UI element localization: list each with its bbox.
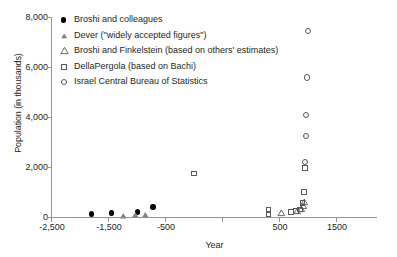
- legend-label: Broshi and Finkelstein (based on others'…: [74, 44, 278, 57]
- data-point-open-square: [302, 165, 308, 171]
- open-triangle-marker-icon: [60, 44, 73, 57]
- x-axis-line: [51, 217, 377, 218]
- scatter-chart: Population (in thousands) 8,000 6,000 4,…: [0, 0, 397, 257]
- legend-label: Broshi and colleagues: [74, 13, 163, 26]
- data-point-open-square: [266, 207, 272, 213]
- x-axis-title: Year: [52, 240, 377, 250]
- open-circle-marker-icon: [60, 75, 73, 88]
- y-tick-mark: [47, 17, 52, 18]
- chart-legend: Broshi and colleagues Dever ("widely acc…: [60, 12, 278, 90]
- y-tick-mark: [47, 117, 52, 118]
- x-tick-label: -2,500: [39, 222, 65, 232]
- y-tick-label: 2,000: [4, 162, 48, 172]
- data-point-filled-circle: [109, 210, 115, 216]
- y-tick-mark: [47, 167, 52, 168]
- data-point-open-circle: [305, 28, 311, 34]
- data-point-open-circle: [303, 112, 309, 118]
- filled-triangle-marker-icon: [60, 29, 73, 42]
- x-tick-label: -500: [157, 222, 175, 232]
- data-point-open-square: [300, 200, 306, 206]
- legend-item: Dever ("widely accepted figures"): [60, 28, 278, 44]
- legend-label: Israel Central Bureau of Statistics: [74, 75, 208, 88]
- legend-item: DellaPergola (based on Bachi): [60, 59, 278, 75]
- data-point-filled-triangle: [119, 212, 128, 220]
- y-tick-label: 6,000: [4, 62, 48, 72]
- legend-label: Dever ("widely accepted figures"): [74, 29, 206, 42]
- y-tick-mark: [47, 67, 52, 68]
- data-point-open-square: [301, 189, 307, 195]
- data-point-open-circle: [304, 74, 310, 80]
- legend-label: DellaPergola (based on Bachi): [74, 60, 196, 73]
- data-point-filled-triangle: [131, 211, 140, 219]
- y-tick-label: 4,000: [4, 112, 48, 122]
- x-tick-label: -1,500: [96, 222, 122, 232]
- legend-item: Broshi and colleagues: [60, 12, 278, 28]
- y-axis-tick-labels: 8,000 6,000 4,000 2,000 0: [0, 0, 48, 257]
- data-point-open-circle: [303, 133, 309, 139]
- open-square-marker-icon: [60, 60, 73, 73]
- legend-item: Israel Central Bureau of Statistics: [60, 74, 278, 90]
- data-point-filled-triangle: [141, 211, 150, 219]
- x-tick-label: 500: [272, 222, 287, 232]
- data-point-open-square: [191, 171, 197, 177]
- y-tick-label: 8,000: [4, 12, 48, 22]
- x-tick-label: 1500: [327, 222, 347, 232]
- filled-circle-marker-icon: [60, 13, 73, 26]
- data-point-open-square: [297, 207, 303, 213]
- x-tick-mark: [222, 217, 223, 222]
- data-point-open-triangle: [277, 209, 286, 217]
- legend-item: Broshi and Finkelstein (based on others'…: [60, 43, 278, 59]
- data-point-filled-circle: [150, 204, 156, 210]
- y-tick-label: 0: [4, 212, 48, 222]
